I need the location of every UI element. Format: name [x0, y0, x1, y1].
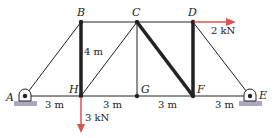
node-label-B: B	[76, 6, 85, 19]
dimension-HG: 3 m	[103, 99, 123, 110]
node-label-E: E	[258, 89, 267, 102]
node-label-F: F	[196, 83, 205, 96]
dimension-height: 4 m	[84, 46, 104, 57]
node-label-C: C	[132, 6, 141, 19]
truss-diagram: B C D A H G F E 4 m 3 m 3 m 3 m 3 m 3 kN…	[0, 0, 274, 138]
node-label-D: D	[187, 6, 197, 19]
node-label-G: G	[141, 83, 150, 96]
load-label-H: 3 kN	[85, 112, 110, 123]
node-label-H: H	[68, 83, 79, 96]
dimension-GF: 3 m	[158, 99, 178, 110]
member-CH	[81, 22, 137, 96]
load-arrow-H	[77, 97, 85, 133]
load-label-D: 2 kN	[211, 25, 236, 36]
dimension-AH: 3 m	[45, 99, 65, 110]
dimension-FE: 3 m	[215, 99, 235, 110]
node-label-A: A	[5, 91, 14, 104]
